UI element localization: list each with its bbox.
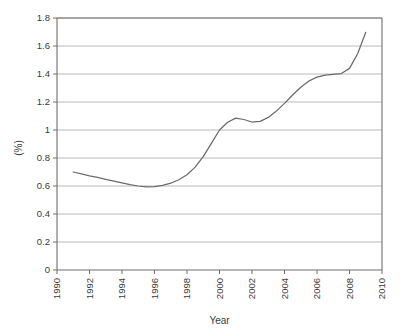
x-tick-label-2006: 2006 [311, 278, 322, 299]
y-tick-label-1.4: 1.4 [37, 68, 50, 79]
y-tick-label-0.6: 0.6 [37, 180, 50, 191]
x-tick-label-2010: 2010 [376, 278, 387, 299]
x-axis-title: Year [209, 315, 230, 326]
x-tick-label-1990: 1990 [51, 278, 62, 299]
x-tick-label-1992: 1992 [84, 278, 95, 299]
y-tick-label-1.8: 1.8 [37, 12, 50, 23]
x-tick-label-2004: 2004 [279, 278, 290, 299]
y-tick-label-0.8: 0.8 [37, 152, 50, 163]
y-tick-label-1: 1 [45, 124, 50, 135]
y-tick-label-0.4: 0.4 [37, 208, 50, 219]
x-tick-label-2008: 2008 [344, 278, 355, 299]
x-tick-label-2002: 2002 [246, 278, 257, 299]
y-tick-label-1.2: 1.2 [37, 96, 50, 107]
x-tick-label-2000: 2000 [214, 278, 225, 299]
y-tick-label-0.2: 0.2 [37, 236, 50, 247]
x-tick-label-1998: 1998 [181, 278, 192, 299]
x-tick-label-1994: 1994 [116, 278, 127, 299]
x-tick-label-1996: 1996 [149, 278, 160, 299]
y-tick-label-0: 0 [45, 264, 50, 275]
y-axis-title: (%) [13, 140, 24, 156]
chart-canvas: 00.20.40.60.811.21.41.61.8 1990199219941… [0, 0, 405, 331]
line-chart: 00.20.40.60.811.21.41.61.8 1990199219941… [0, 0, 405, 331]
y-tick-label-1.6: 1.6 [37, 40, 50, 51]
